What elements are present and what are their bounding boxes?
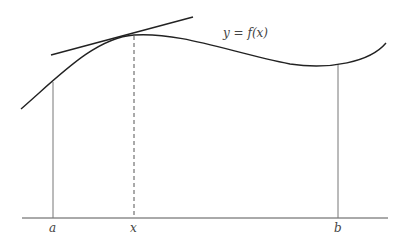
curve-f bbox=[21, 35, 386, 109]
tangent-line bbox=[51, 17, 193, 55]
axis-label-a: a bbox=[49, 221, 56, 235]
diagram-canvas bbox=[0, 0, 405, 241]
axis-label-x: x bbox=[130, 221, 137, 235]
curve-label: y = f(x) bbox=[223, 26, 268, 40]
axis-label-b: b bbox=[334, 221, 342, 235]
